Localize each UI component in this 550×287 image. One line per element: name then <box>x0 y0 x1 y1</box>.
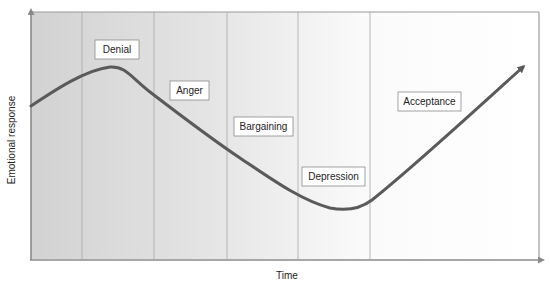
stage-label-depression-text: Depression <box>308 171 359 182</box>
stage-label-denial: Denial <box>95 40 139 59</box>
stage-label-bargaining: Bargaining <box>234 117 293 136</box>
stage-label-bargaining-text: Bargaining <box>240 121 288 132</box>
stage-label-anger: Anger <box>170 81 209 100</box>
stage-label-anger-text: Anger <box>176 85 203 96</box>
y-axis-label: Emotional response <box>6 95 17 184</box>
x-axis-label: Time <box>276 270 298 281</box>
stage-label-acceptance: Acceptance <box>398 92 461 111</box>
stage-label-depression: Depression <box>302 167 365 186</box>
stage-label-denial-text: Denial <box>103 44 131 55</box>
grief-stages-diagram: Denial Anger Bargaining Depression Accep… <box>0 0 550 287</box>
stage-label-acceptance-text: Acceptance <box>403 96 456 107</box>
